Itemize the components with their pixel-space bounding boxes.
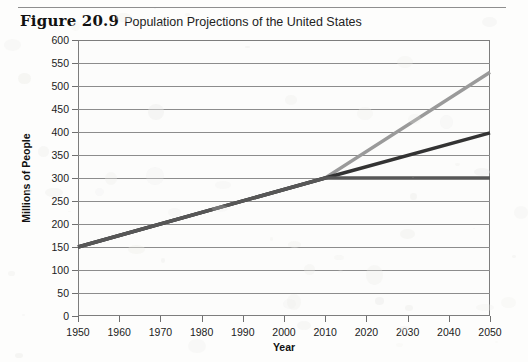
x-tick-label: 2000 — [272, 326, 295, 338]
paper-texture-speck — [482, 17, 497, 27]
paper-texture-speck — [396, 343, 403, 347]
paper-texture-speck — [514, 206, 528, 219]
figure-caption: Figure 20.9Population Projections of the… — [20, 13, 362, 29]
x-tick-mark — [202, 316, 203, 322]
x-tick-label: 1950 — [66, 326, 89, 338]
paper-texture-speck — [8, 271, 16, 276]
paper-texture-speck — [38, 146, 49, 157]
x-tick-label: 2050 — [478, 326, 501, 338]
series-layer — [78, 40, 490, 316]
y-tick-label: 600 — [51, 34, 69, 46]
paper-texture-speck — [297, 321, 311, 330]
paper-texture-speck — [188, 339, 205, 353]
y-tick-label: 250 — [51, 195, 69, 207]
y-tick-label: 450 — [51, 103, 69, 115]
x-tick-mark — [408, 316, 409, 322]
y-axis-label: Millions of People — [20, 133, 32, 222]
x-tick-label: 2040 — [437, 326, 460, 338]
x-tick-label: 1960 — [108, 326, 131, 338]
x-tick-label: 1990 — [231, 326, 254, 338]
y-tick-label: 350 — [51, 149, 69, 161]
series-line-low-projection — [78, 178, 490, 247]
header-rule — [18, 7, 506, 8]
y-tick-label: 550 — [51, 57, 69, 69]
y-tick-label: 500 — [51, 80, 69, 92]
x-tick-label: 2020 — [355, 326, 378, 338]
paper-texture-speck — [495, 341, 498, 342]
x-tick-mark — [284, 316, 285, 322]
x-tick-label: 2030 — [396, 326, 419, 338]
paper-texture-speck — [68, 211, 71, 212]
series-line-high-projection — [78, 72, 490, 247]
figure-number: Figure 20.9 — [20, 12, 119, 30]
y-tick-label: 400 — [51, 126, 69, 138]
paper-texture-speck — [15, 353, 23, 358]
paper-texture-speck — [501, 297, 515, 308]
paper-texture-speck — [4, 39, 20, 51]
y-tick-label: 150 — [51, 241, 69, 253]
x-tick-mark — [243, 316, 244, 322]
x-tick-mark — [160, 316, 161, 322]
y-tick-label: 0 — [63, 310, 69, 322]
y-tick-label: 200 — [51, 218, 69, 230]
x-tick-mark — [325, 316, 326, 322]
x-axis-label: Year — [273, 341, 295, 353]
figure-title: Population Projections of the United Sta… — [124, 15, 362, 29]
x-tick-label: 2010 — [314, 326, 337, 338]
x-tick-label: 1980 — [190, 326, 213, 338]
x-tick-mark — [78, 316, 79, 322]
y-tick-label: 300 — [51, 172, 69, 184]
x-tick-mark — [449, 316, 450, 322]
x-tick-mark — [366, 316, 367, 322]
x-tick-mark — [119, 316, 120, 322]
x-tick-mark — [490, 316, 491, 322]
y-tick-label: 100 — [51, 264, 69, 276]
y-tick-label: 50 — [57, 287, 69, 299]
plot-area: 050100150200250300350400450500550600 195… — [78, 40, 490, 316]
paper-texture-speck — [18, 73, 30, 85]
x-tick-label: 1970 — [149, 326, 172, 338]
paper-texture-speck — [512, 255, 516, 258]
paper-texture-speck — [22, 314, 25, 316]
